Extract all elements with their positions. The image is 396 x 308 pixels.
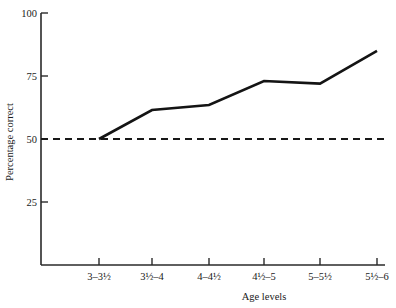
chart-figure: 100 75 50 25 3–3½ 3½–4 4–4½ 4½–5 5–5½ 5½… [0,0,396,308]
x-tick-label-6: 5½–6 [365,271,389,282]
y-tick-label-25: 25 [27,197,38,208]
x-tick-label-2: 3½–4 [140,271,164,282]
x-axis-title: Age levels [242,291,287,302]
line-chart-canvas: 100 75 50 25 3–3½ 3½–4 4–4½ 4½–5 5–5½ 5½… [0,0,396,308]
chart-background [0,0,396,308]
x-tick-label-5: 5–5½ [308,271,332,282]
y-tick-label-100: 100 [21,8,37,19]
y-tick-label-50: 50 [27,134,38,145]
x-tick-label-4: 4½–5 [252,271,276,282]
y-axis-title: Percentage correct [4,103,15,181]
y-tick-label-75: 75 [27,71,38,82]
x-tick-label-1: 3–3½ [87,271,111,282]
x-tick-label-3: 4–4½ [197,271,221,282]
